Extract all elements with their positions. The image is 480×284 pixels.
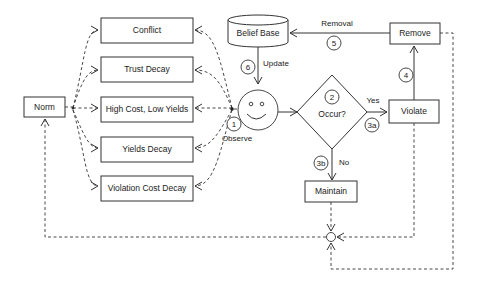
observer-to-factors-edges [195,30,232,186]
svg-text:1: 1 [232,120,237,129]
trust-decay-node[interactable]: Trust Decay [101,57,193,82]
remove-to-junction-edge [331,33,453,269]
svg-text:Violation Cost Decay: Violation Cost Decay [108,183,187,193]
svg-text:4: 4 [404,71,409,80]
svg-text:6: 6 [246,63,251,72]
svg-text:Occur?: Occur? [318,109,346,119]
svg-text:Conflict: Conflict [133,25,162,35]
no-label: No [339,158,350,167]
norm-node[interactable]: Norm [24,97,65,117]
svg-text:Yields Decay: Yields Decay [122,144,172,154]
svg-text:Violate: Violate [401,106,427,116]
svg-text:Belief Base: Belief Base [237,28,280,38]
observe-label: Observe [222,134,253,143]
violate-node[interactable]: Violate [389,100,439,123]
svg-text:Remove: Remove [399,28,431,38]
occur-decision-node[interactable]: Occur? [297,75,367,149]
svg-text:Maintain: Maintain [315,186,347,196]
step-3a-badge: 3a [365,118,379,132]
observer-junction-dot [230,107,234,111]
svg-text:2: 2 [330,93,335,102]
yields-decay-node[interactable]: Yields Decay [101,137,193,162]
violate-to-junction-edge [337,123,414,237]
svg-text:Norm: Norm [34,102,55,112]
maintain-node[interactable]: Maintain [305,181,357,202]
svg-text:High Cost, Low Yields: High Cost, Low Yields [106,104,189,114]
step-1-badge: 1 [227,117,241,131]
svg-text:5: 5 [332,39,337,48]
norm-junction-dot [72,107,75,110]
update-label: Update [263,59,289,68]
svg-text:Trust Decay: Trust Decay [124,64,170,74]
high-cost-low-yields-node[interactable]: High Cost, Low Yields [101,97,193,122]
conflict-node[interactable]: Conflict [101,18,193,43]
belief-base-node[interactable]: Belief Base [228,15,288,47]
remove-node[interactable]: Remove [390,23,440,44]
step-2-badge: 2 [325,90,339,104]
agent-smiley-icon [238,90,278,130]
svg-text:3b: 3b [317,159,326,168]
step-4-badge: 4 [399,68,413,82]
removal-label: Removal [321,19,353,28]
step-5-badge: 5 [327,36,341,50]
step-6-badge: 6 [241,60,255,74]
norm-to-factors-edges [73,30,98,186]
svg-text:3a: 3a [368,121,377,130]
step-3b-badge: 3b [314,156,328,170]
norm-lifecycle-diagram: Norm Conflict Trust Decay High Cost, Low… [0,0,480,284]
violation-cost-decay-node[interactable]: Violation Cost Decay [101,176,193,201]
yes-label: Yes [366,96,379,105]
merge-junction [327,233,336,242]
